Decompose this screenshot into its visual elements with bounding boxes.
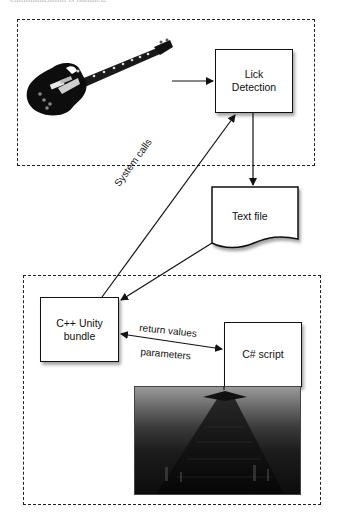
- 3d-scene-render-image: [134, 386, 301, 495]
- text-file-label: Text file: [232, 210, 268, 222]
- cpp-bundle-label-line2: bundle: [64, 330, 96, 343]
- cpp-bundle-label-line1: C++ Unity: [56, 317, 103, 330]
- csharp-script-node: C# script: [224, 322, 302, 387]
- csharp-script-label: C# script: [242, 348, 283, 361]
- cpp-unity-bundle-node: C++ Unity bundle: [40, 297, 119, 362]
- lick-detection-node: Lick Detection: [215, 49, 293, 113]
- lick-detection-label-line1: Lick: [245, 68, 264, 81]
- lick-detection-label-line2: Detection: [232, 81, 276, 94]
- cut-off-caption-text: communication is handled.: [10, 0, 107, 4]
- electric-guitar-icon: [22, 38, 174, 118]
